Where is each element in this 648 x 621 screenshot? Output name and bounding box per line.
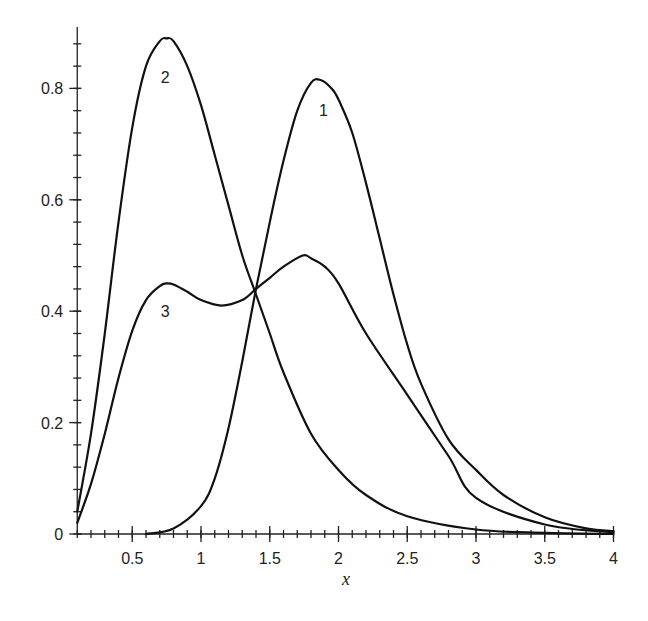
x-tick-label: 4 [609,550,618,567]
x-tick-label: 2 [334,550,343,567]
x-tick-label: 1.5 [259,550,281,567]
y-tick-label: 0.8 [41,80,63,97]
plot-curves [77,38,613,534]
curve-label-2: 2 [161,69,170,86]
curve-labels: 123 [161,69,328,320]
x-tick-label: 1 [197,550,206,567]
x-tick-label: 3 [472,550,481,567]
x-tick-label: 0.5 [121,550,143,567]
x-tick-label: 2.5 [396,550,418,567]
y-tick-label: 0.6 [41,192,63,209]
curve-label-1: 1 [319,102,328,119]
curve-1 [146,79,614,534]
curve-3 [77,255,613,532]
x-tick-label: 3.5 [534,550,556,567]
x-axis-title: x [341,569,350,589]
curve-label-3: 3 [161,303,170,320]
y-tick-label: 0.4 [41,303,63,320]
y-tick-label: 0 [54,526,63,543]
y-axis: 00.20.40.60.8 [41,27,81,543]
chart-canvas: 00.20.40.60.8 0.511.522.533.54 123 x [0,0,648,621]
y-tick-label: 0.2 [41,415,63,432]
